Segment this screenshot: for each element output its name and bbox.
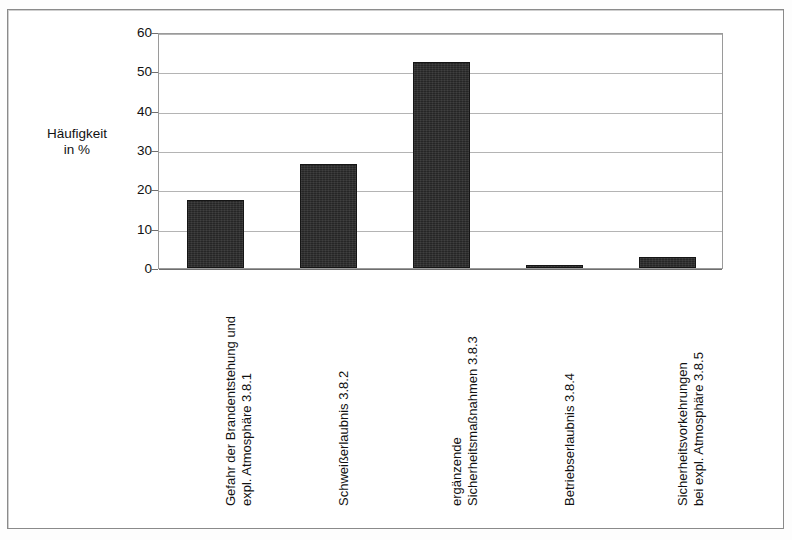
bar-chart: 6050403020100 Gefahr der Brandentstehung… <box>0 0 792 540</box>
gridline-60 <box>159 34 722 35</box>
category-label-line1: Sicherheitsvorkehrungen <box>675 276 691 506</box>
category-label-4: Betriebserlaubnis 3.8.4 <box>562 276 578 506</box>
bar-5[interactable] <box>639 257 696 268</box>
category-label-3: ergänzendeSicherheitsmaßnahmen 3.8.3 <box>449 276 480 506</box>
category-label-line1: ergänzende <box>449 276 465 506</box>
category-label-5: Sicherheitsvorkehrungenbei expl. Atmosph… <box>675 276 706 506</box>
y-tick-label-0: 0 <box>112 262 152 276</box>
y-tick-mark-10 <box>150 230 158 231</box>
y-axis-tick-labels: 6050403020100 <box>108 33 152 269</box>
page-canvas: Häufigkeit in % 6050403020100 Gefahr der… <box>0 0 792 540</box>
gridline-0 <box>159 269 722 270</box>
bar-2[interactable] <box>300 164 357 268</box>
y-tick-mark-60 <box>150 33 158 34</box>
category-label-line1: Betriebserlaubnis 3.8.4 <box>562 276 578 506</box>
y-tick-mark-20 <box>150 190 158 191</box>
y-tick-mark-40 <box>150 112 158 113</box>
category-label-line1: Schweißerlaubnis 3.8.2 <box>336 276 352 506</box>
y-tick-label-10: 10 <box>112 223 152 237</box>
category-label-line2: Sicherheitsmaßnahmen 3.8.3 <box>464 276 480 506</box>
bar-1[interactable] <box>187 200 244 268</box>
category-label-line1: Gefahr der Brandentstehung und <box>223 276 239 506</box>
y-tick-label-50: 50 <box>112 65 152 79</box>
y-tick-mark-30 <box>150 151 158 152</box>
y-tick-label-20: 20 <box>112 183 152 197</box>
y-tick-mark-0 <box>150 269 158 270</box>
category-label-line2: bei expl. Atmosphäre 3.8.5 <box>690 276 706 506</box>
category-label-line2: expl. Atmosphäre 3.8.1 <box>238 276 254 506</box>
y-tick-mark-50 <box>150 72 158 73</box>
bar-4[interactable] <box>526 265 583 268</box>
y-tick-label-30: 30 <box>112 144 152 158</box>
category-label-2: Schweißerlaubnis 3.8.2 <box>336 276 352 506</box>
bar-3[interactable] <box>413 62 470 268</box>
plot-area <box>158 33 723 269</box>
y-tick-label-40: 40 <box>112 105 152 119</box>
y-tick-label-60: 60 <box>112 26 152 40</box>
category-label-1: Gefahr der Brandentstehung undexpl. Atmo… <box>223 276 254 506</box>
